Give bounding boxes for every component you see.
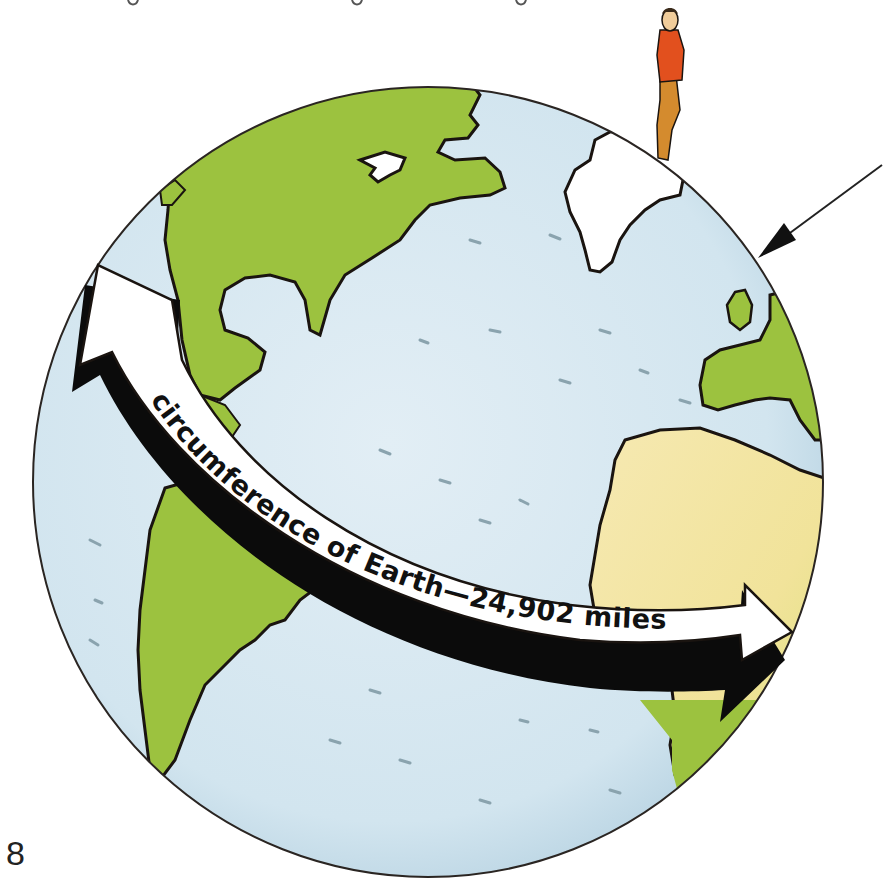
top-text-fragment xyxy=(128,0,526,5)
person-figure xyxy=(657,8,684,160)
page-number: 8 xyxy=(6,836,25,870)
arrow-pointer-icon xyxy=(758,165,882,258)
globe-icon xyxy=(33,79,830,877)
earth-illustration: circumference of Earth—24,902 miles xyxy=(0,0,883,885)
